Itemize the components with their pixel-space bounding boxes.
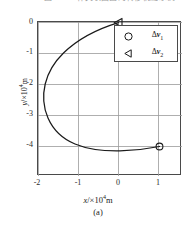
- y-tick-label-4: -4: [17, 141, 33, 149]
- legend-sub-1: 1: [160, 34, 163, 40]
- legend: Δv1 Δv2: [114, 25, 178, 62]
- figure-root: 图 4-25 作关联曲面的转移轨道示例 0 -1 -2 -3 -4 -2 -1 …: [0, 0, 196, 227]
- x-axis-title: x/×104m: [0, 192, 196, 205]
- left-triangle-marker-icon: [115, 48, 141, 59]
- y-axis-title-var: y: [20, 102, 29, 106]
- y-axis-title-exponent: 4: [18, 84, 24, 87]
- x-tick-label-2: 0: [110, 179, 126, 187]
- legend-sub-2: 2: [160, 51, 163, 57]
- legend-label-delta-v2: Δv2: [141, 47, 179, 60]
- circle-glyph: [123, 31, 134, 42]
- left-triangle-glyph: [123, 48, 134, 59]
- marker-delta-v1-circle: [156, 143, 163, 150]
- y-axis-title-unit: m: [20, 78, 29, 84]
- x-axis-title-mid: /×10: [87, 195, 103, 205]
- sub-caption: (a): [0, 207, 196, 217]
- x-tick-label-0: -2: [29, 179, 45, 187]
- legend-entry-delta-v1: Δv1: [115, 27, 179, 45]
- circle-marker-icon: [115, 31, 141, 42]
- legend-entry-delta-v2: Δv2: [115, 44, 179, 62]
- figure-caption-partial: 图 4-25 作关联曲面的转移轨道示例: [44, 0, 175, 3]
- plot-area: Δv1 Δv2: [37, 21, 181, 175]
- cropped-caption-strip: 图 4-25 作关联曲面的转移轨道示例: [0, 0, 196, 8]
- y-tick-label-0: 0: [17, 18, 33, 26]
- x-axis-title-unit: m: [106, 195, 113, 205]
- y-tick-label-1: -1: [17, 48, 33, 56]
- x-tick-label-3: 1: [150, 179, 166, 187]
- legend-label-delta-v1: Δv1: [141, 30, 179, 43]
- y-axis-title-mid: /×10: [20, 87, 29, 102]
- x-tick-label-1: -1: [70, 179, 86, 187]
- y-axis-title: y/×104m: [17, 62, 29, 122]
